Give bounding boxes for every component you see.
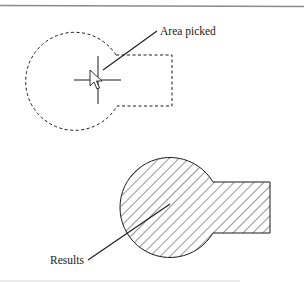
area-picked-leader-line — [103, 31, 157, 70]
diagram-canvas: Area picked Results — [0, 0, 304, 282]
area-picked-label: Area picked — [160, 25, 216, 38]
top-border — [0, 6, 304, 7]
result-region-shape — [110, 150, 280, 265]
results-label: Results — [50, 254, 84, 266]
hatch-fill — [110, 150, 280, 265]
arrow-cursor-icon — [90, 70, 102, 89]
